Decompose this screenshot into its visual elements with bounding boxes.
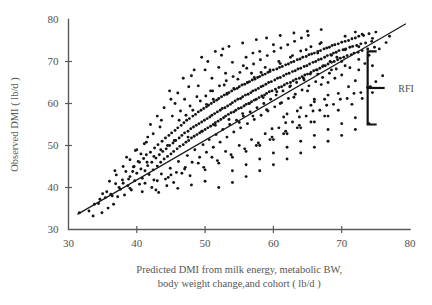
data-point	[107, 207, 110, 210]
data-point	[217, 66, 220, 69]
data-point	[293, 40, 296, 43]
data-point	[146, 136, 149, 139]
data-point	[272, 163, 275, 166]
data-point	[202, 166, 205, 169]
data-point	[190, 136, 193, 139]
data-point	[232, 87, 235, 90]
data-point	[314, 80, 317, 83]
data-point	[292, 79, 295, 82]
data-point	[149, 151, 152, 154]
data-point	[194, 113, 197, 116]
data-point	[150, 186, 153, 189]
data-point	[323, 115, 326, 118]
data-point	[223, 84, 226, 87]
data-point	[187, 139, 190, 142]
data-point	[156, 115, 159, 118]
data-point	[313, 146, 316, 149]
data-point	[167, 134, 170, 137]
data-point	[273, 50, 276, 53]
data-point	[195, 124, 198, 127]
data-point	[142, 157, 145, 160]
data-point	[231, 61, 234, 64]
data-point	[131, 170, 134, 173]
scatter-plot-figure: 304050607080 304050607080 RFI Observed D…	[0, 0, 432, 305]
data-point	[197, 162, 200, 165]
data-point	[210, 77, 213, 80]
data-point	[282, 89, 285, 92]
data-point	[231, 181, 234, 184]
data-point	[101, 211, 104, 214]
data-point	[354, 37, 357, 40]
data-point	[337, 109, 340, 112]
data-point	[188, 117, 191, 120]
data-point	[275, 90, 278, 93]
data-point	[170, 131, 173, 134]
data-point	[327, 128, 330, 131]
data-point	[195, 133, 198, 136]
data-point	[241, 84, 244, 87]
data-point	[152, 155, 155, 158]
data-point	[190, 74, 193, 77]
data-point	[294, 69, 297, 72]
data-point	[291, 54, 294, 57]
data-point	[125, 156, 128, 159]
data-point	[351, 45, 354, 48]
data-point	[291, 70, 294, 73]
data-point	[321, 76, 324, 79]
data-point	[179, 110, 182, 113]
data-point	[299, 67, 302, 70]
data-point	[122, 182, 125, 185]
data-point	[267, 81, 270, 84]
data-point	[282, 115, 285, 118]
data-point	[180, 172, 183, 175]
data-point	[287, 63, 290, 66]
data-point	[273, 105, 276, 108]
data-point	[231, 169, 234, 172]
data-point	[144, 169, 147, 172]
data-point	[205, 151, 208, 154]
data-point	[241, 112, 244, 115]
data-point	[277, 60, 280, 63]
data-point	[217, 120, 220, 123]
data-point	[294, 93, 297, 96]
data-point	[378, 47, 381, 50]
data-point	[225, 79, 228, 82]
data-point	[113, 169, 116, 172]
plot-canvas: 304050607080 304050607080 RFI Observed D…	[0, 0, 432, 305]
data-point	[228, 45, 231, 48]
data-point	[327, 140, 330, 143]
data-point	[279, 34, 282, 37]
data-point	[176, 187, 179, 190]
data-point	[307, 53, 310, 56]
data-point	[359, 42, 362, 45]
data-point	[257, 87, 260, 90]
data-point	[224, 150, 227, 153]
y-tick-label: 60	[48, 97, 60, 109]
data-point	[338, 49, 341, 52]
data-point	[190, 184, 193, 187]
data-point	[332, 103, 335, 106]
data-point	[214, 121, 217, 124]
data-point	[286, 146, 289, 149]
data-point	[217, 162, 220, 165]
data-point	[159, 126, 162, 129]
data-point	[333, 60, 336, 63]
data-point	[209, 89, 212, 92]
y-axis-title: Observed DMI ( lb/d )	[9, 77, 21, 172]
data-point	[226, 92, 229, 95]
data-point	[204, 180, 207, 183]
data-point	[296, 110, 299, 113]
data-point	[210, 114, 213, 117]
data-point	[275, 68, 278, 71]
data-point	[374, 31, 377, 34]
data-point	[230, 153, 233, 156]
data-point	[167, 176, 170, 179]
data-point	[191, 115, 194, 118]
data-point	[108, 180, 111, 183]
data-point	[277, 126, 280, 129]
data-point	[357, 35, 360, 38]
data-point	[177, 160, 180, 163]
data-point	[284, 130, 287, 133]
data-point	[297, 68, 300, 71]
data-point	[185, 119, 188, 122]
